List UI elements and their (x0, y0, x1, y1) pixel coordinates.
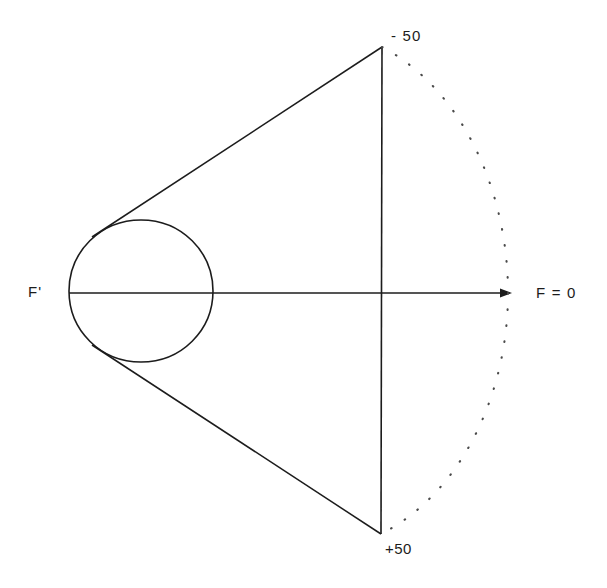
diagram-canvas: - 50 +50 F = 0 F' (0, 0, 607, 588)
lower-ray-line (92, 345, 381, 534)
diagram-svg (0, 0, 607, 588)
label-axis-f-equals-zero: F = 0 (536, 285, 577, 300)
axis-arrowhead-icon (500, 288, 512, 297)
label-minus-50: - 50 (391, 28, 422, 43)
upper-ray-line (92, 47, 382, 237)
lens-circle (69, 220, 213, 362)
label-plus-50: +50 (385, 541, 412, 556)
field-curvature-dotted-arc (381, 47, 508, 534)
optical-axis-group (69, 288, 512, 297)
label-lens-f-prime: F' (28, 284, 42, 299)
image-plane-line (381, 47, 382, 534)
